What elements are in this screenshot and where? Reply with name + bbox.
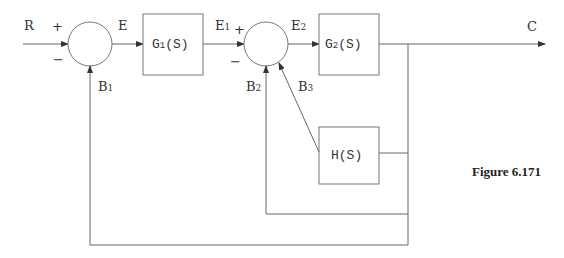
input-label-r: R <box>24 18 35 33</box>
error-label-e: E <box>118 18 128 33</box>
feedback-b3-line <box>279 63 319 152</box>
sum2-plus-sign: + <box>234 22 245 37</box>
sum2-minus-sign: − <box>230 54 241 69</box>
summing-junction-2 <box>244 22 288 66</box>
block-g2-label: G2(S) <box>325 37 362 52</box>
block-g1-label: G1(S) <box>152 37 189 52</box>
e2-label: E2 <box>291 18 306 33</box>
b3-label: B3 <box>298 79 314 94</box>
sum1-minus-sign: − <box>53 52 64 67</box>
sum1-plus-sign: + <box>52 19 63 34</box>
figure-caption: Figure 6.171 <box>472 164 541 179</box>
output-label-c: C <box>527 19 537 34</box>
summing-junction-1 <box>68 22 112 66</box>
b2-label: B2 <box>246 79 261 94</box>
block-h-label: H(S) <box>331 148 362 163</box>
b1-label: B1 <box>98 79 113 94</box>
block-diagram: R + − E G1(S) E1 + − E2 G2(S) C H(S) B3 … <box>0 0 564 258</box>
e1-label: E1 <box>215 18 230 33</box>
